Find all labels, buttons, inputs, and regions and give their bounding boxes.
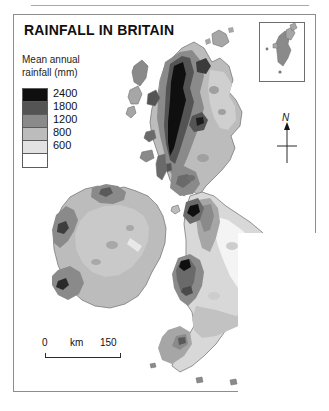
scale-bar: 0 km 150 [42,337,128,351]
scotland-patch-b [218,109,226,115]
scale-bar-rule [45,353,121,358]
scale-bar-max-label: 150 [100,337,117,348]
legend-swatch-1200 [23,115,47,128]
islay-jura [140,150,154,162]
isle-of-man [171,205,180,214]
legend-label-1200: 1200 [53,113,77,126]
scotland-patch-d [187,175,195,181]
orkney-islet-b [228,27,234,33]
england-patch-c [208,292,220,300]
shetland-inset-frame [259,22,305,82]
legend-label-column: 2400 1800 1200 800 600 [53,87,77,152]
legend-swatch-800 [23,128,47,141]
ireland-patch-b [91,259,101,265]
orkney-islet-a [205,38,211,45]
legend-label-2400: 2400 [53,87,77,100]
legend-label-600: 600 [53,139,77,152]
scale-bar-min-label: 0 [42,337,48,348]
legend-heading: Mean annual rainfall (mm) [22,53,108,79]
scotland-patch-c [197,154,209,162]
scale-bar-unit-label: km [70,337,83,348]
north-arrow: N [278,112,312,164]
scilly-islet [150,363,156,368]
ireland-patch-a [106,241,118,249]
kintyre-peninsula [156,154,167,180]
legend-swatch-column [22,88,48,168]
region-ireland [52,184,166,308]
england-patch-a [226,242,238,250]
outer-hebrides-north [132,60,148,86]
channel-islet-a [196,377,203,383]
scale-bar-labels: 0 km 150 [42,337,128,351]
legend-heading-line2: rainfall (mm) [22,66,108,79]
frame-occlusion-mask [238,233,329,393]
page-title: RAINFALL IN BRITAIN [24,22,174,38]
scotland-patch-a [209,86,219,94]
legend-heading-line1: Mean annual [22,53,108,66]
outer-hebrides-mid [128,86,142,104]
arran-island [166,163,172,172]
legend-swatch-below600 [23,154,47,167]
outer-hebrides-south [126,106,136,118]
legend-label-1800: 1800 [53,100,77,113]
orkney-islands [212,30,229,47]
channel-islet-b [230,379,237,385]
legend-label-800: 800 [53,126,77,139]
legend-swatch-2400 [23,89,47,102]
rainfall-map-figure: RAINFALL IN BRITAIN Mean annual rainfall… [0,0,329,411]
ireland-patch-c [126,225,134,231]
legend-swatch-600 [23,141,47,154]
legend: Mean annual rainfall (mm) 2400 1800 1200… [22,53,117,79]
legend-swatch-1800 [23,102,47,115]
north-arrow-label: N [282,112,289,123]
